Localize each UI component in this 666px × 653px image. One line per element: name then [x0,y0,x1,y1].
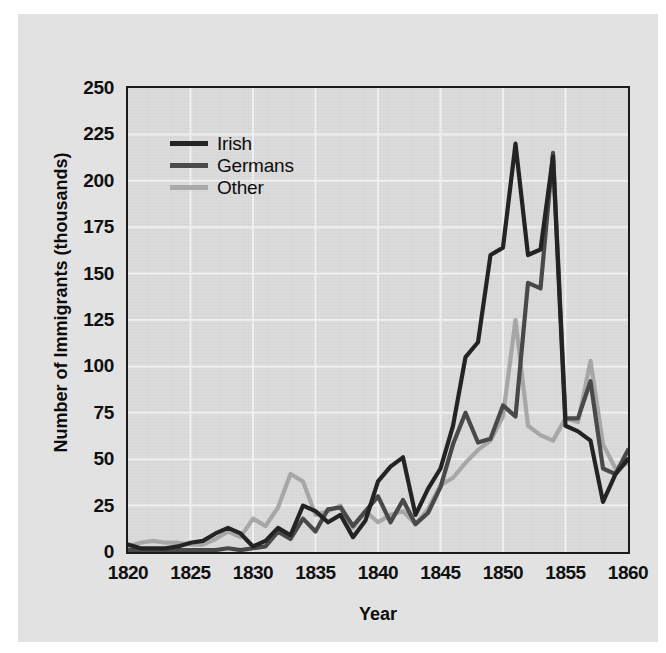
y-axis-tick-label: 225 [18,123,114,145]
y-axis-tick-label: 0 [18,541,114,563]
chart-legend: IrishGermansOther [170,132,360,198]
x-axis-tick-label: 1825 [158,562,224,584]
legend-swatch-germans [170,163,208,168]
legend-swatch-other [170,185,208,190]
y-axis-tick-label: 250 [18,77,114,99]
y-axis-title: Number of Immigrants (thousands) [51,108,72,498]
x-axis-tick-label: 1855 [533,562,599,584]
y-axis-tick-label: 100 [18,355,114,377]
y-axis-tick-label: 75 [18,402,114,424]
x-axis-tick-label: 1820 [95,562,161,584]
y-axis-tick-label: 125 [18,309,114,331]
y-axis-tick-label: 200 [18,170,114,192]
y-axis-tick-label: 50 [18,448,114,470]
figure-panel: Number of Immigrants (thousands) 2502252… [18,14,658,642]
x-axis-tick-label: 1830 [220,562,286,584]
x-axis-tick-label: 1845 [408,562,474,584]
legend-swatch-irish [170,141,208,146]
y-axis-tick-label: 25 [18,495,114,517]
y-axis-tick-label: 175 [18,216,114,238]
legend-label: Germans [217,156,294,175]
x-axis-tick-label: 1860 [595,562,661,584]
legend-item: Irish [170,132,360,154]
legend-label: Other [217,178,264,197]
x-axis-tick-label: 1835 [283,562,349,584]
legend-item: Germans [170,154,360,176]
x-axis-tick-label: 1840 [345,562,411,584]
legend-label: Irish [217,134,252,153]
y-axis-tick-label: 150 [18,263,114,285]
x-axis-title: Year [126,604,630,625]
x-axis-tick-label: 1850 [470,562,536,584]
chart-page: Number of Immigrants (thousands) 2502252… [0,0,666,653]
figure-inner: Number of Immigrants (thousands) 2502252… [18,14,658,642]
legend-item: Other [170,176,360,198]
